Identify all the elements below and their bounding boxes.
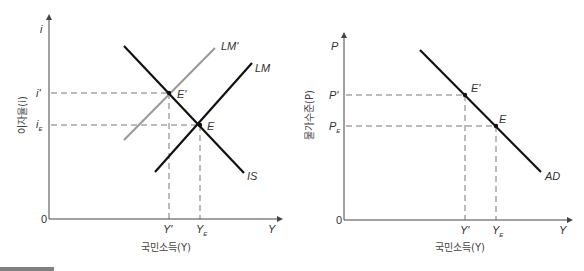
- right-panel-ad: P 0 Y P' PE Y' YE AD E' E 국민소득(Y) 물가수준(P…: [304, 35, 570, 253]
- point-e-ad: [494, 124, 498, 128]
- right-ytick-p-prime: P': [329, 89, 339, 101]
- left-panel-islm: i 0 Y i' iE Y' YE LM' LM IS E' E 국민소득(Y)…: [17, 17, 280, 253]
- right-x-axis-title: 국민소득(Y): [435, 242, 485, 253]
- ad-label: AD: [544, 170, 560, 182]
- right-guide-lines: [346, 95, 496, 220]
- point-e: [198, 123, 202, 127]
- lm-curve: [155, 63, 252, 172]
- is-label: IS: [247, 170, 258, 182]
- left-ytick-i-e: iE: [36, 118, 43, 132]
- left-guide-lines: [51, 93, 200, 219]
- point-e-prime-ad: [463, 93, 467, 97]
- right-y-axis-title: 물가수준(P): [304, 90, 315, 140]
- e-label-ad: E: [499, 113, 507, 125]
- e-prime-label: E': [177, 88, 187, 100]
- islm-ad-diagram: i 0 Y i' iE Y' YE LM' LM IS E' E 국민소득(Y)…: [0, 0, 584, 271]
- lm-prime-label: LM': [221, 40, 239, 52]
- right-x-symbol: Y: [559, 224, 567, 236]
- left-y-symbol: i: [40, 23, 43, 35]
- right-y-symbol: P: [331, 40, 339, 52]
- right-xtick-y-e: YE: [492, 224, 504, 238]
- left-xtick-y-e: YE: [196, 223, 208, 237]
- e-prime-label-ad: E': [471, 82, 481, 94]
- right-xtick-y-prime: Y': [460, 224, 470, 236]
- point-e-prime: [167, 91, 171, 95]
- figure-caption-bar: [0, 267, 54, 271]
- e-label: E: [207, 120, 215, 132]
- left-xtick-y-prime: Y': [163, 223, 173, 235]
- ad-curve: [420, 50, 541, 172]
- left-y-axis-title: 이자율(i): [17, 96, 28, 134]
- left-x-symbol: Y: [268, 223, 276, 235]
- is-curve: [124, 46, 244, 173]
- left-x-axis-title: 국민소득(Y): [141, 242, 191, 253]
- lm-label: LM: [255, 62, 271, 74]
- left-origin: 0: [41, 213, 47, 225]
- left-ytick-i-prime: i': [36, 87, 41, 99]
- right-ytick-p-e: PE: [329, 120, 341, 134]
- right-origin: 0: [336, 214, 342, 226]
